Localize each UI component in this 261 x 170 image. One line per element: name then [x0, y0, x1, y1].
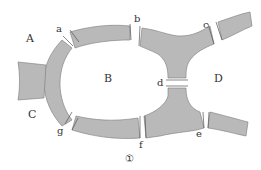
figure-number: ①	[125, 153, 134, 164]
region-label-d: D	[214, 72, 223, 85]
bridge-label-f: f	[139, 139, 144, 150]
region-label-c: C	[28, 108, 36, 121]
bridge-diagram: A B C D a b c d e f g ①	[0, 0, 261, 170]
diagram-svg: A B C D a b c d e f g ①	[0, 0, 261, 170]
bridge-label-e: e	[196, 128, 202, 139]
region-label-a: A	[25, 32, 35, 45]
bridge-e	[203, 112, 209, 128]
bridge-label-g: g	[57, 125, 64, 136]
bridge-b	[130, 24, 140, 46]
land-left-arc	[44, 40, 72, 126]
land-bottom-gf	[72, 116, 140, 139]
bridge-label-d: d	[157, 77, 164, 88]
land-lower-center	[144, 88, 204, 138]
bridge-label-c: c	[203, 19, 209, 30]
land-left-stub	[18, 62, 46, 100]
land-center-right	[140, 26, 214, 78]
bridge-label-a: a	[56, 23, 62, 34]
bridge-d	[166, 80, 188, 86]
land-top-ab	[70, 25, 130, 48]
region-label-b: B	[104, 72, 112, 85]
bridge-label-b: b	[134, 13, 140, 24]
land-upper-right-arm	[218, 12, 252, 40]
land-lower-right-arm	[208, 112, 248, 136]
